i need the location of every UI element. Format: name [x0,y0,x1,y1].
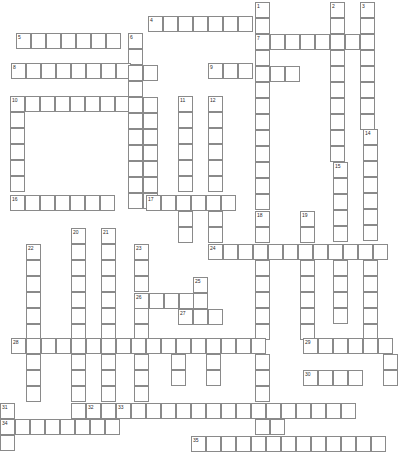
crossword-cell[interactable] [71,63,86,79]
crossword-cell-numbered-35[interactable]: 35 [191,436,206,452]
crossword-cell[interactable] [360,18,375,34]
crossword-cell[interactable] [341,403,356,419]
crossword-cell[interactable] [171,370,186,386]
crossword-cell[interactable] [71,338,86,354]
crossword-cell[interactable] [55,195,70,211]
crossword-cell[interactable] [360,66,375,82]
crossword-cell[interactable] [333,260,348,276]
crossword-cell[interactable] [255,18,270,34]
crossword-cell-numbered-14[interactable]: 14 [363,129,378,145]
crossword-cell[interactable] [25,195,40,211]
crossword-cell[interactable] [330,130,345,146]
crossword-cell-numbered-21[interactable]: 21 [101,228,116,244]
crossword-cell[interactable] [178,16,193,32]
crossword-cell[interactable] [363,161,378,177]
crossword-cell[interactable] [341,436,356,452]
crossword-cell[interactable] [255,227,270,243]
crossword-cell[interactable] [10,176,25,192]
crossword-cell-numbered-9[interactable]: 9 [208,63,223,79]
crossword-cell[interactable] [363,292,378,308]
crossword-cell[interactable] [318,338,333,354]
crossword-cell[interactable] [208,128,223,144]
crossword-cell[interactable] [105,419,120,435]
crossword-cell[interactable] [270,419,285,435]
crossword-cell[interactable] [255,276,270,292]
crossword-cell[interactable] [221,338,236,354]
crossword-cell[interactable] [383,370,398,386]
crossword-cell[interactable] [131,403,146,419]
crossword-cell[interactable] [179,293,194,309]
crossword-cell[interactable] [128,177,143,193]
crossword-cell[interactable] [363,276,378,292]
crossword-cell[interactable] [330,146,345,162]
crossword-cell[interactable] [163,16,178,32]
crossword-cell[interactable] [300,227,315,243]
crossword-cell[interactable] [0,435,15,451]
crossword-cell[interactable] [128,65,143,81]
crossword-cell-numbered-6[interactable]: 6 [128,33,143,49]
crossword-cell[interactable] [300,276,315,292]
crossword-cell[interactable] [363,260,378,276]
crossword-cell-numbered-28[interactable]: 28 [11,338,26,354]
crossword-cell[interactable] [10,160,25,176]
crossword-cell-numbered-22[interactable]: 22 [26,244,41,260]
crossword-cell-numbered-20[interactable]: 20 [71,228,86,244]
crossword-cell[interactable] [326,436,341,452]
crossword-cell[interactable] [26,370,41,386]
crossword-cell[interactable] [208,176,223,192]
crossword-cell[interactable] [333,276,348,292]
crossword-cell[interactable] [360,114,375,130]
crossword-cell-numbered-18[interactable]: 18 [255,211,270,227]
crossword-cell[interactable] [356,436,371,452]
crossword-cell-numbered-32[interactable]: 32 [86,403,101,419]
crossword-cell[interactable] [343,244,358,260]
crossword-cell[interactable] [255,308,270,324]
crossword-cell[interactable] [363,145,378,161]
crossword-cell[interactable] [143,65,158,81]
crossword-cell[interactable] [251,338,266,354]
crossword-cell-numbered-15[interactable]: 15 [333,162,348,178]
crossword-cell-numbered-11[interactable]: 11 [178,96,193,112]
crossword-cell[interactable] [161,338,176,354]
crossword-cell[interactable] [143,161,158,177]
crossword-cell[interactable] [90,419,105,435]
crossword-cell[interactable] [206,354,221,370]
crossword-cell[interactable] [134,276,149,292]
crossword-cell[interactable] [71,260,86,276]
crossword-cell[interactable] [76,33,91,49]
crossword-cell-numbered-19[interactable]: 19 [300,211,315,227]
crossword-cell[interactable] [363,225,378,241]
crossword-cell[interactable] [348,338,363,354]
crossword-cell[interactable] [101,292,116,308]
crossword-cell[interactable] [326,403,341,419]
crossword-cell[interactable] [333,292,348,308]
crossword-cell[interactable] [100,96,115,112]
crossword-cell[interactable] [193,293,208,309]
crossword-cell[interactable] [101,403,116,419]
crossword-cell[interactable] [191,195,206,211]
crossword-cell-numbered-1[interactable]: 1 [255,2,270,18]
crossword-cell[interactable] [236,436,251,452]
crossword-cell[interactable] [360,34,375,50]
crossword-cell[interactable] [101,244,116,260]
crossword-cell-numbered-25[interactable]: 25 [193,277,208,293]
crossword-cell-numbered-23[interactable]: 23 [134,244,149,260]
crossword-cell-numbered-10[interactable]: 10 [10,96,25,112]
crossword-cell-numbered-3[interactable]: 3 [360,2,375,18]
crossword-cell[interactable] [161,403,176,419]
crossword-cell[interactable] [238,244,253,260]
crossword-cell[interactable] [251,436,266,452]
crossword-cell[interactable] [31,33,46,49]
crossword-cell[interactable] [311,436,326,452]
crossword-cell[interactable] [311,403,326,419]
crossword-cell[interactable] [128,113,143,129]
crossword-cell-numbered-5[interactable]: 5 [16,33,31,49]
crossword-cell[interactable] [134,308,149,324]
crossword-cell[interactable] [333,338,348,354]
crossword-cell[interactable] [101,338,116,354]
crossword-cell[interactable] [255,130,270,146]
crossword-cell[interactable] [100,195,115,211]
crossword-cell[interactable] [255,178,270,194]
crossword-cell[interactable] [318,370,333,386]
crossword-cell[interactable] [41,63,56,79]
